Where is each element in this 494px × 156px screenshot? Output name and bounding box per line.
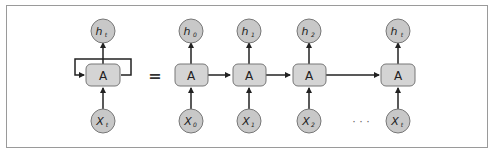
rolled-rnn: h t A X t xyxy=(75,19,131,133)
svg-text:A: A xyxy=(245,69,254,83)
svg-text:A: A xyxy=(99,69,108,83)
ellipsis: · · · xyxy=(352,115,369,128)
output-node-h0: h 0 xyxy=(179,19,203,43)
output-node-ht: h t xyxy=(386,19,410,43)
svg-text:h: h xyxy=(184,25,191,38)
input-node-xt: X t xyxy=(91,109,115,133)
svg-text:2: 2 xyxy=(311,31,315,38)
input-node-x1: X 1 xyxy=(237,109,261,133)
svg-text:h: h xyxy=(391,25,398,38)
svg-text:A: A xyxy=(394,69,403,83)
output-node-h1: h 1 xyxy=(237,19,261,43)
equals-sign: = xyxy=(148,66,161,85)
svg-text:h: h xyxy=(96,25,103,38)
rnn-diagram: h t A X t = h 0 A xyxy=(0,0,494,156)
rnn-cell: A xyxy=(293,64,326,86)
unrolled-step-2: h 2 A X 2 xyxy=(293,19,326,133)
rnn-cell: A xyxy=(381,64,415,86)
svg-text:X: X xyxy=(95,115,104,128)
svg-text:A: A xyxy=(305,69,314,83)
input-node-xt: X t xyxy=(386,109,410,133)
rnn-cell: A xyxy=(86,64,120,86)
svg-text:2: 2 xyxy=(311,121,315,128)
unrolled-step-t: h t A X t xyxy=(381,19,415,133)
unrolled-step-1: h 1 A X 1 xyxy=(233,19,266,133)
svg-text:0: 0 xyxy=(193,31,197,38)
svg-text:h: h xyxy=(302,25,309,38)
rnn-cell: A xyxy=(175,64,208,86)
unrolled-step-0: h 0 A X 0 xyxy=(175,19,208,133)
svg-text:1: 1 xyxy=(251,31,255,38)
svg-text:X: X xyxy=(241,115,250,128)
svg-text:X: X xyxy=(183,115,192,128)
svg-text:X: X xyxy=(301,115,310,128)
svg-text:A: A xyxy=(187,69,196,83)
svg-text:0: 0 xyxy=(193,121,197,128)
input-node-x2: X 2 xyxy=(297,109,321,133)
svg-text:h: h xyxy=(242,25,249,38)
rnn-cell: A xyxy=(233,64,266,86)
svg-text:1: 1 xyxy=(251,121,255,128)
input-node-x0: X 0 xyxy=(179,109,203,133)
output-node-h2: h 2 xyxy=(297,19,321,43)
svg-text:X: X xyxy=(390,115,399,128)
output-node-ht: h t xyxy=(91,19,115,43)
